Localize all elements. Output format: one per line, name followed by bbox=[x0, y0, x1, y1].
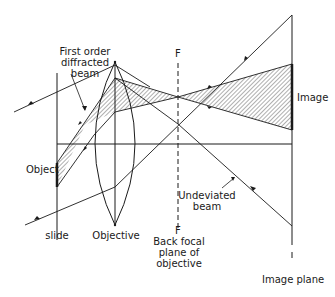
undeviated-beam-label: Undeviated beam bbox=[178, 190, 236, 212]
slide-label: slide bbox=[42, 230, 72, 241]
back-focal-plane-label: Back focal plane of objective bbox=[148, 236, 210, 269]
image-label: Image bbox=[297, 92, 328, 103]
first-order-label: First order diffracted beam bbox=[55, 46, 115, 79]
undeviated-leader bbox=[222, 177, 235, 188]
object-label: Object bbox=[26, 164, 59, 175]
hatched-beam-region bbox=[57, 64, 292, 187]
objective-label: Objective bbox=[88, 230, 144, 241]
image-plane-label: Image plane bbox=[262, 274, 322, 285]
f-bottom-label: F bbox=[172, 225, 184, 236]
f-top-label: F bbox=[172, 48, 184, 59]
